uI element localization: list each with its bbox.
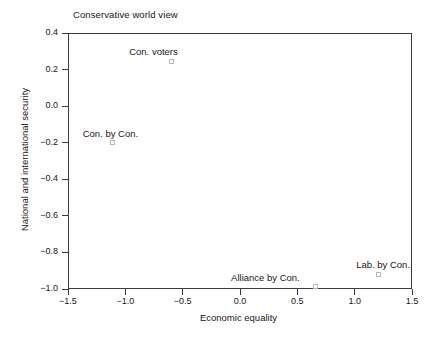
x-tick-label: 1.5 (392, 297, 432, 306)
data-point-label: Alliance by Con. (231, 273, 300, 283)
y-tick-mark (62, 215, 68, 216)
data-point-marker[interactable] (110, 140, 115, 145)
data-point-marker[interactable] (313, 284, 318, 289)
x-axis-label-text: Economic equality (160, 312, 277, 323)
y-tick-mark (62, 69, 68, 70)
y-tick-mark (62, 142, 68, 143)
y-axis-label: National and international security (19, 32, 30, 288)
y-tick-label: −0.6 (40, 211, 58, 220)
x-tick-mark (240, 289, 241, 295)
y-tick-mark (62, 33, 68, 34)
x-axis-label: Economic equality (0, 312, 437, 323)
x-tick-mark (125, 289, 126, 295)
data-point-label: Lab. by Con. (356, 260, 410, 270)
chart-title: Conservative world view (73, 9, 178, 20)
x-tick-label: −0.5 (163, 297, 203, 306)
y-tick-mark (62, 252, 68, 253)
y-tick-mark (62, 179, 68, 180)
data-point-marker[interactable] (376, 272, 381, 277)
y-tick-label: −0.8 (40, 247, 58, 256)
x-tick-mark (297, 289, 298, 295)
x-tick-mark (412, 289, 413, 295)
plot-area (68, 33, 412, 289)
data-point-label: Con. by Con. (83, 129, 138, 139)
x-tick-label: −1.5 (48, 297, 88, 306)
y-tick-label: 0.4 (45, 28, 58, 37)
x-tick-mark (182, 289, 183, 295)
y-tick-label: −0.2 (40, 138, 58, 147)
x-tick-label: 0.5 (277, 297, 317, 306)
x-tick-label: 0.0 (220, 297, 260, 306)
x-tick-label: 1.0 (335, 297, 375, 306)
y-tick-mark (62, 106, 68, 107)
x-tick-mark (68, 289, 69, 295)
data-point-label: Con. voters (129, 47, 178, 57)
x-tick-label: −1.0 (105, 297, 145, 306)
y-tick-label: −0.4 (40, 174, 58, 183)
y-tick-label: 0.2 (45, 65, 58, 74)
y-tick-label: 0.0 (45, 101, 58, 110)
scatter-chart-figure: Conservative world view 0.40.20.0−0.2−0.… (0, 0, 437, 337)
data-point-marker[interactable] (169, 59, 174, 64)
y-tick-label: −1.0 (40, 284, 58, 293)
x-tick-mark (354, 289, 355, 295)
